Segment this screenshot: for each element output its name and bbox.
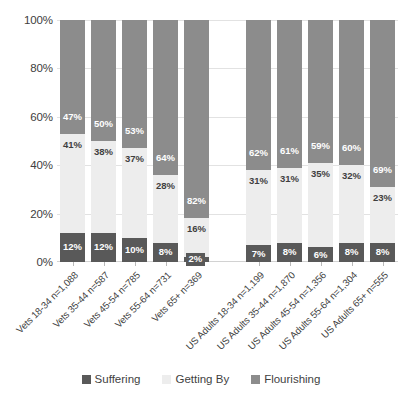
legend-swatch-flourishing xyxy=(251,375,260,384)
data-label-suffering: 10% xyxy=(122,245,146,255)
y-axis-tick-80: 80% xyxy=(7,63,53,75)
data-label-flourishing: 61% xyxy=(277,146,301,156)
bar-segment-getting[interactable]: 16% xyxy=(184,218,208,257)
bar-column[interactable]: 8%23%69% xyxy=(370,20,394,262)
data-label-getting: 41% xyxy=(60,140,84,150)
data-label-getting: 28% xyxy=(153,181,177,191)
bar-column[interactable]: 10%37%53% xyxy=(122,20,146,262)
bar-column[interactable]: 12%41%47% xyxy=(60,20,84,262)
bar-segment-flourishing[interactable]: 69% xyxy=(370,20,394,187)
plot-area: 12%41%47%12%38%50%10%37%53%8%28%64%16%82… xyxy=(57,20,398,262)
bar-column[interactable]: 12%38%50% xyxy=(91,20,115,262)
bar-segment-flourishing[interactable]: 59% xyxy=(308,20,332,163)
x-axis-tickmark xyxy=(135,262,136,266)
data-label-flourishing: 53% xyxy=(122,126,146,136)
data-label-flourishing: 62% xyxy=(246,148,270,158)
bar-segment-suffering[interactable]: 6% xyxy=(308,247,332,262)
legend-label-getting-by: Getting By xyxy=(175,374,229,386)
data-label-getting: 16% xyxy=(184,224,208,234)
data-label-suffering: 12% xyxy=(91,242,115,252)
bar-segment-suffering[interactable]: 8% xyxy=(153,243,177,262)
bar-column[interactable]: 16%82% xyxy=(184,20,208,262)
data-label-flourishing: 59% xyxy=(308,141,332,151)
bar-segment-flourishing[interactable]: 60% xyxy=(339,20,363,165)
x-axis-tickmark xyxy=(73,262,74,266)
legend-item-suffering[interactable]: Suffering xyxy=(82,374,141,386)
data-label-suffering: 2% xyxy=(186,253,206,266)
bar-segment-getting[interactable]: 38% xyxy=(91,141,115,233)
x-axis-label: Vets 18-34 n=1,088 xyxy=(0,270,80,391)
bar-segment-suffering[interactable]: 8% xyxy=(277,243,301,262)
bar-segment-flourishing[interactable]: 53% xyxy=(122,20,146,148)
data-label-suffering: 8% xyxy=(339,247,363,257)
bar-segment-suffering[interactable]: 8% xyxy=(339,243,363,262)
legend-swatch-getting-by xyxy=(162,375,171,384)
bar-segment-getting[interactable]: 28% xyxy=(153,175,177,243)
data-label-suffering: 6% xyxy=(308,250,332,260)
bar-column[interactable]: 6%35%59% xyxy=(308,20,332,262)
bar-segment-getting[interactable]: 32% xyxy=(339,165,363,242)
y-axis-tick-20: 20% xyxy=(7,209,53,221)
legend-item-flourishing[interactable]: Flourishing xyxy=(251,374,320,386)
x-axis-tickmark xyxy=(383,262,384,266)
bar-column[interactable]: 7%31%62% xyxy=(246,20,270,262)
bar-segment-suffering[interactable]: 10% xyxy=(122,238,146,262)
data-label-flourishing: 69% xyxy=(370,165,394,175)
data-label-suffering: 12% xyxy=(60,242,84,252)
bar-segment-flourishing[interactable]: 47% xyxy=(60,20,84,134)
data-label-flourishing: 47% xyxy=(60,112,84,122)
x-axis-tickmark xyxy=(166,262,167,266)
chart-legend: Suffering Getting By Flourishing xyxy=(0,374,402,386)
x-axis-tickmark xyxy=(321,262,322,266)
y-axis-tick-0: 0% xyxy=(7,257,53,269)
bar-segment-getting[interactable]: 41% xyxy=(60,134,84,233)
bar-segment-getting[interactable]: 31% xyxy=(277,168,301,243)
bar-segment-getting[interactable]: 31% xyxy=(246,170,270,245)
bar-column[interactable]: 8%28%64% xyxy=(153,20,177,262)
data-label-getting: 23% xyxy=(370,193,394,203)
legend-label-flourishing: Flourishing xyxy=(264,374,320,386)
data-label-getting: 31% xyxy=(246,176,270,186)
bar-column[interactable]: 8%32%60% xyxy=(339,20,363,262)
x-axis-tickmark xyxy=(352,262,353,266)
y-axis-tick-60: 60% xyxy=(7,112,53,124)
bar-segment-suffering[interactable]: 12% xyxy=(91,233,115,262)
bar-segment-suffering[interactable]: 8% xyxy=(370,243,394,262)
stacked-bar-chart: 100% 80% 60% 40% 20% 0% 12%41%47%12%38%5… xyxy=(0,0,402,406)
data-label-getting: 38% xyxy=(91,147,115,157)
data-label-suffering: 7% xyxy=(246,249,270,259)
data-label-flourishing: 82% xyxy=(184,196,208,206)
data-label-flourishing: 60% xyxy=(339,143,363,153)
bar-segment-flourishing[interactable]: 82% xyxy=(184,20,208,218)
y-axis-tick-40: 40% xyxy=(7,160,53,172)
x-axis-tickmark xyxy=(290,262,291,266)
data-label-getting: 37% xyxy=(122,154,146,164)
data-label-suffering: 8% xyxy=(277,247,301,257)
bar-segment-flourishing[interactable]: 62% xyxy=(246,20,270,170)
legend-item-getting-by[interactable]: Getting By xyxy=(162,374,229,386)
data-label-getting: 31% xyxy=(277,174,301,184)
bar-segment-flourishing[interactable]: 50% xyxy=(91,20,115,141)
legend-label-suffering: Suffering xyxy=(95,374,141,386)
bar-segment-getting[interactable]: 23% xyxy=(370,187,394,243)
data-label-flourishing: 64% xyxy=(153,153,177,163)
bar-segment-flourishing[interactable]: 61% xyxy=(277,20,301,168)
data-label-getting: 35% xyxy=(308,169,332,179)
bar-segment-flourishing[interactable]: 64% xyxy=(153,20,177,175)
data-label-flourishing: 50% xyxy=(91,119,115,129)
bar-segment-getting[interactable]: 37% xyxy=(122,148,146,238)
x-axis-tickmark xyxy=(259,262,260,266)
y-axis-tick-100: 100% xyxy=(7,15,53,27)
data-label-getting: 32% xyxy=(339,171,363,181)
x-axis-tickmark xyxy=(104,262,105,266)
bar-segment-getting[interactable]: 35% xyxy=(308,163,332,248)
bar-segment-suffering[interactable]: 7% xyxy=(246,245,270,262)
bar-segment-suffering[interactable]: 12% xyxy=(60,233,84,262)
data-label-suffering: 8% xyxy=(153,247,177,257)
legend-swatch-suffering xyxy=(82,375,91,384)
bar-column[interactable]: 8%31%61% xyxy=(277,20,301,262)
data-label-suffering: 8% xyxy=(370,247,394,257)
